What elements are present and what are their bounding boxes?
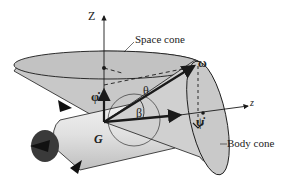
phi-dot-label: φ̇: [91, 90, 99, 103]
body-cone-label: Body cone: [227, 138, 274, 149]
euler-cones-diagram: Z Space cone ω θ β φ̇ ψ̇ G z Body cone: [0, 0, 289, 181]
omega-label: ω: [198, 57, 207, 69]
Z-axis-label: Z: [88, 10, 95, 22]
psi-dot-label: ψ̇: [196, 116, 204, 128]
z-axis-label: z: [250, 98, 254, 108]
space-cone-label: Space cone: [135, 34, 185, 45]
beta-label: β: [136, 107, 142, 119]
theta-label: θ: [143, 85, 149, 97]
G-label: G: [94, 133, 103, 145]
